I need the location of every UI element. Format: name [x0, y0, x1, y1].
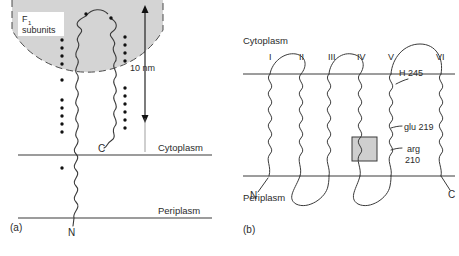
n-terminus-label-a: N	[68, 227, 75, 238]
helix-III	[327, 74, 331, 176]
panel-a: F 1 subunits	[0, 0, 232, 256]
cytoplasm-label-a: Cytoplasm	[158, 142, 203, 153]
helix-V	[389, 74, 393, 176]
leader-line-glu219	[391, 126, 402, 128]
periplasm-label-a: Periplasm	[158, 205, 200, 216]
residue-label-210: 210	[405, 155, 420, 165]
loop-II-III	[292, 176, 329, 206]
loop-IV-V	[353, 176, 391, 206]
n-terminal-tail-b	[258, 178, 268, 192]
cytoplasm-label-b: Cytoplasm	[243, 35, 288, 46]
n-terminus-label-b: N	[250, 190, 257, 201]
helix-VI	[439, 74, 443, 176]
residue-label-arg: arg	[407, 144, 420, 154]
panel-tag-b: (b)	[243, 224, 255, 235]
helix-label-II: II	[299, 52, 304, 62]
figure-root: F 1 subunits	[0, 0, 459, 256]
panel-tag-a: (a)	[10, 222, 22, 233]
residue-label-glu219: glu 219	[404, 122, 434, 132]
residue-label-h245: H 245	[399, 68, 423, 78]
helix-I	[268, 74, 272, 176]
helix-label-V: V	[388, 52, 394, 62]
c-terminus-label-b: C	[448, 189, 455, 200]
highlight-box	[352, 137, 377, 161]
helix-II	[299, 74, 303, 176]
leader-line-h245	[396, 79, 408, 84]
f1-subunits-label-line2: subunits	[22, 25, 56, 35]
helix-label-IV: IV	[357, 52, 366, 62]
scale-label: 10 nm	[130, 63, 155, 73]
helix-label-I: I	[269, 52, 272, 62]
panel-b: Cytoplasm Periplasm I II III IV V VI	[232, 0, 459, 256]
f1-dome-fill	[12, 0, 163, 72]
c-terminal-tail-b	[441, 176, 450, 190]
c-terminus-label-a: C	[98, 143, 105, 154]
